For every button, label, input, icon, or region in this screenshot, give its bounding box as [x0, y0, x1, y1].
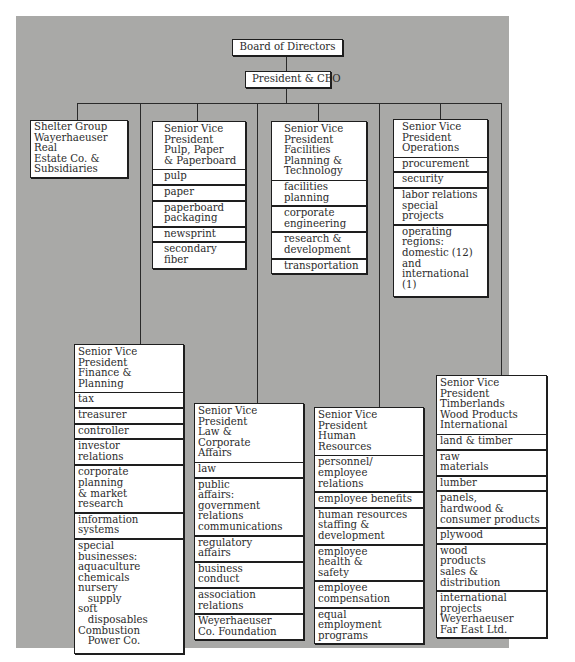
connector-law — [257, 103, 258, 403]
pulp-item: paper — [153, 184, 245, 200]
shelter-group-box: Shelter Group Wayerhaeuser Real Estate C… — [30, 120, 128, 178]
hr-item: personnel/ employee relations — [315, 456, 423, 491]
hr-item: equal employment programs — [315, 607, 423, 644]
pulp-item: paperboard packaging — [153, 200, 245, 226]
timberlands-item: lumber — [437, 475, 546, 491]
pulp-paper-title: Senior Vice President Pulp, Paper & Pape… — [153, 122, 245, 170]
law-item: law — [195, 463, 303, 477]
shelter-group-title: Shelter Group Wayerhaeuser Real Estate C… — [31, 121, 127, 177]
operations-box: Senior Vice President Operations procure… — [393, 119, 488, 297]
connector-timberlands — [501, 103, 502, 375]
timberlands-item: international projects Weyerhaeuser Far … — [437, 590, 546, 637]
law-corporate-affairs-title: Senior Vice President Law & Corporate Af… — [195, 404, 303, 463]
operations-item: procurement — [394, 158, 487, 172]
timberlands-item: panels, hardwood & consumer products — [437, 490, 546, 527]
facilities-item: facilities planning — [272, 181, 366, 205]
finance-item: corporate planning & market research — [75, 464, 183, 511]
operations-title: Senior Vice President Operations — [394, 120, 487, 158]
timberlands-item: raw materials — [437, 449, 546, 475]
finance-item: tax — [75, 393, 183, 407]
connector-finance — [140, 103, 141, 344]
operations-item: operating regions: domestic (12) and int… — [394, 224, 487, 297]
pulp-item: secondary fiber — [153, 241, 245, 267]
hr-item: employee compensation — [315, 580, 423, 606]
hr-item: employee health & safety — [315, 544, 423, 581]
finance-planning-title: Senior Vice President Finance & Planning — [75, 345, 183, 393]
law-corporate-affairs-box: Senior Vice President Law & Corporate Af… — [194, 403, 304, 640]
connector-hr — [379, 103, 380, 407]
connector-ceo-bus — [286, 87, 287, 104]
finance-planning-box: Senior Vice President Finance & Planning… — [74, 344, 184, 654]
hr-item: employee benefits — [315, 491, 423, 507]
connector-shelter — [77, 103, 78, 120]
law-item: public affairs: government relations com… — [195, 477, 303, 535]
facilities-item: research & development — [272, 231, 366, 257]
board-of-directors-box: Board of Directors — [232, 39, 343, 56]
human-resources-title: Senior Vice President Human Resources — [315, 408, 423, 456]
connector-board-ceo — [286, 55, 287, 71]
timberlands-title: Senior Vice President Timberlands Wood P… — [437, 376, 546, 435]
finance-item: special businesses: aquaculture chemical… — [75, 538, 183, 653]
finance-item: treasurer — [75, 407, 183, 423]
facilities-item: transportation — [272, 258, 366, 274]
pulp-item: newsprint — [153, 226, 245, 242]
board-of-directors-label: Board of Directors — [240, 41, 336, 52]
human-resources-box: Senior Vice President Human Resources pe… — [314, 407, 424, 644]
connector-facilities — [318, 103, 319, 121]
law-item: association relations — [195, 587, 303, 613]
hr-item: human resources staffing & development — [315, 507, 423, 544]
timberlands-item: wood products sales & distribution — [437, 543, 546, 590]
pulp-paper-box: Senior Vice President Pulp, Paper & Pape… — [152, 121, 246, 269]
operations-item: security — [394, 171, 487, 187]
law-item: Weyerhaeuser Co. Foundation — [195, 613, 303, 639]
finance-item: controller — [75, 423, 183, 439]
president-ceo-box: President & CEO — [245, 71, 331, 88]
facilities-item: corporate engineering — [272, 205, 366, 231]
connector-pulp — [197, 103, 198, 121]
operations-item: labor relations special projects — [394, 187, 487, 224]
president-ceo-label: President & CEO — [252, 73, 341, 84]
pulp-item: pulp — [153, 170, 245, 184]
finance-item: information systems — [75, 512, 183, 538]
law-item: business conduct — [195, 561, 303, 587]
timberlands-item: plywood — [437, 527, 546, 543]
timberlands-box: Senior Vice President Timberlands Wood P… — [436, 375, 547, 638]
facilities-planning-title: Senior Vice President Facilities Plannin… — [272, 122, 366, 181]
law-item: regulatory affairs — [195, 535, 303, 561]
timberlands-item: land & timber — [437, 435, 546, 449]
finance-item: investor relations — [75, 438, 183, 464]
facilities-planning-box: Senior Vice President Facilities Plannin… — [271, 121, 367, 274]
